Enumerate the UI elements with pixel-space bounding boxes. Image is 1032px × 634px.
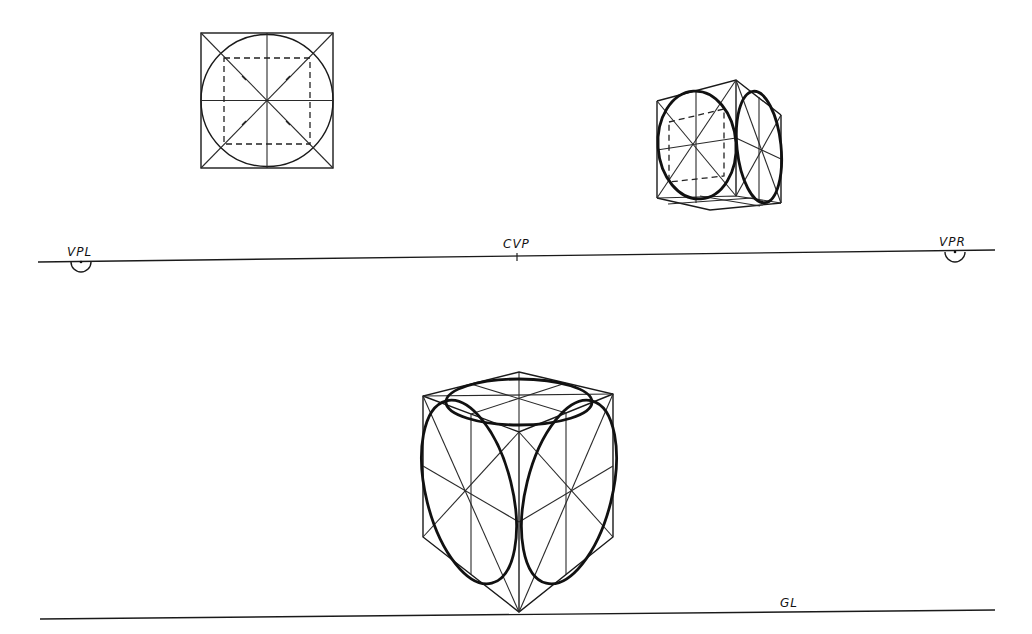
perspective-drawing: VPL CVP VPR GL <box>0 0 1032 634</box>
vpr-marker-icon <box>945 252 965 262</box>
small-cube <box>654 80 786 210</box>
large-cube <box>405 372 634 612</box>
orthographic-square <box>201 33 333 168</box>
large-cube-left-ellipse <box>405 390 534 593</box>
large-cube-outline <box>423 372 613 612</box>
vpl-label: VPL <box>67 245 92 259</box>
vpr-label: VPR <box>939 235 966 249</box>
gl-label: GL <box>780 596 798 610</box>
vpl-marker-icon <box>71 262 91 272</box>
cvp-label: CVP <box>503 237 530 251</box>
horizon-line-group: VPL CVP VPR <box>38 235 995 272</box>
